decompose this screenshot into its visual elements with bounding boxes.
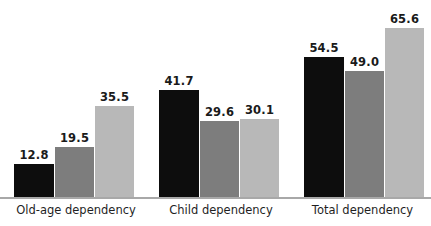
category-label-total-dependency: Total dependency xyxy=(294,203,431,217)
category-label-child-dependency: Child dependency xyxy=(149,203,293,217)
bar-series-1 xyxy=(159,90,199,197)
bar-value-label: 19.5 xyxy=(60,131,89,145)
bar-series-3 xyxy=(95,106,134,197)
bar-series-3 xyxy=(240,119,279,197)
bar-series-2 xyxy=(200,121,239,197)
bar-series-2 xyxy=(345,71,384,197)
bar-series-1 xyxy=(304,57,344,197)
x-axis-line xyxy=(0,197,431,199)
bar-value-label: 12.8 xyxy=(19,148,48,162)
bar-value-label: 54.5 xyxy=(309,41,338,55)
bar-value-label: 41.7 xyxy=(164,74,193,88)
category-label-old-age-dependency: Old-age dependency xyxy=(4,203,148,217)
bar-chart: 12.8 19.5 35.5 41.7 29.6 30.1 xyxy=(0,0,431,226)
bar-value-label: 30.1 xyxy=(245,103,274,117)
bar-group-child-dependency: 41.7 29.6 30.1 xyxy=(159,0,283,197)
bar-value-label: 35.5 xyxy=(100,90,129,104)
bar-value-label: 29.6 xyxy=(205,105,234,119)
bar-series-2 xyxy=(55,147,94,197)
bar-series-3 xyxy=(385,28,424,197)
x-axis-category-labels: Old-age dependency Child dependency Tota… xyxy=(0,200,431,226)
bar-value-label: 49.0 xyxy=(350,55,379,69)
bar-group-total-dependency: 54.5 49.0 65.6 xyxy=(304,0,428,197)
bar-series-1 xyxy=(14,164,54,197)
bar-value-label: 65.6 xyxy=(390,12,419,26)
bar-group-old-age-dependency: 12.8 19.5 35.5 xyxy=(14,0,138,197)
plot-area: 12.8 19.5 35.5 41.7 29.6 30.1 xyxy=(0,0,431,197)
